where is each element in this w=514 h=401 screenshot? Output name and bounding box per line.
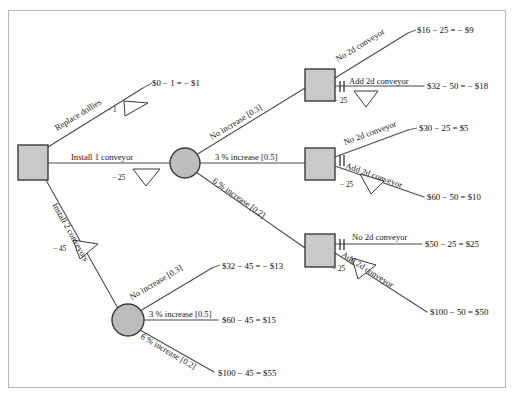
cost-triangle-replace-dollies [124, 101, 148, 116]
label-no-increase-upper: No increase [0.3] [208, 102, 264, 142]
label-install-2-conveyors: Install 2 conveyors [50, 201, 91, 263]
cost-label-install-2-conveyors: − 45 [53, 244, 67, 253]
leader-no-increase-lower [212, 265, 220, 268]
label-3pct-upper: 3 % increase [0.5] [215, 152, 278, 162]
outcome-no-2d-mid: $30 − 25 = $5 [419, 123, 469, 133]
label-6pct-upper: 6 % increase [0.2] [211, 175, 268, 220]
label-add-2d-top: Add 2d conveyor [349, 76, 409, 86]
label-no-increase-lower: No increase [0.3] [128, 262, 184, 301]
leader-replace-dollies [143, 83, 152, 88]
decision-tree-diagram: Replace dollies Install 1 conveyor Insta… [0, 0, 514, 401]
cost-label-add-2d-mid: − 25 [340, 180, 354, 189]
outcome-no-2d-bot: $50 − 25 = $25 [425, 239, 480, 249]
leader-no-2d-mid [408, 128, 417, 130]
label-6pct-lower: 6 % increase [0.2] [139, 331, 198, 371]
outcome-add-2d-bot: $100 − 50 = $50 [430, 307, 489, 317]
chance-node-2-conveyors[interactable] [112, 304, 144, 336]
label-3pct-lower: 3 % increase [0.5] [149, 309, 212, 319]
leader-no-2d-top [408, 30, 416, 33]
edge-no-increase-upper [196, 88, 305, 155]
cost-label-add-2d-top: − 25 [334, 96, 348, 105]
decision-node-6pct-increase[interactable] [305, 234, 335, 267]
label-install-1-conveyor: Install 1 conveyor [71, 152, 133, 162]
tree-canvas: Replace dollies Install 1 conveyor Insta… [0, 0, 514, 401]
root-decision-node[interactable] [18, 145, 48, 180]
cost-label-replace-dollies: − 1 [107, 105, 117, 114]
outcome-3pct-lower: $60 − 45 = $15 [222, 315, 277, 325]
label-replace-dollies: Replace dollies [53, 96, 104, 132]
cost-label-add-2d-bot: − 25 [332, 264, 346, 273]
outcome-6pct-lower: $100 − 45 = $55 [218, 368, 277, 378]
cost-label-install-1-conveyor: − 25 [112, 173, 126, 182]
decision-node-no-increase[interactable] [305, 69, 335, 101]
cost-triangle-add-2d-top [354, 91, 378, 107]
label-no-2d-top: No 2d conveyor [334, 26, 387, 64]
outcome-add-2d-mid: $60 − 50 = $10 [427, 192, 482, 202]
outcome-no-2d-top: $16 − 25 = − $9 [417, 25, 474, 35]
outcome-replace-dollies: $0 − 1 = − $1 [152, 78, 200, 88]
label-no-2d-bot: No 2d conveyor [352, 232, 408, 242]
label-no-2d-mid: No 2d conveyor [342, 118, 398, 146]
outcome-add-2d-top: $32 − 50 = − $18 [427, 81, 489, 91]
decision-node-3pct-increase[interactable] [305, 148, 335, 180]
outcome-no-increase-lower: $32 − 45 = − $13 [222, 261, 284, 271]
chance-node-1-conveyor[interactable] [170, 148, 200, 178]
label-add-2d-bot: Add 2d conveyor [340, 249, 396, 290]
cost-triangle-install-1-conveyor [133, 169, 160, 186]
